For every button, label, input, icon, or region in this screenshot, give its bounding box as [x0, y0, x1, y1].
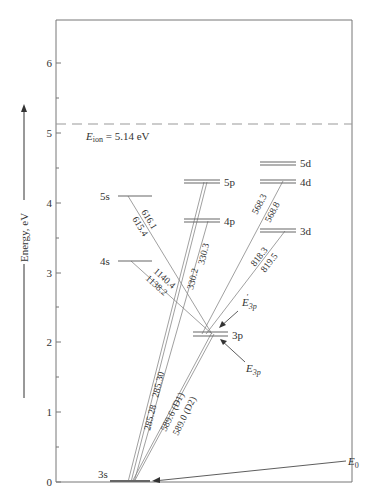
tick-label: 0	[47, 476, 53, 488]
axis-tick-labels: 0 1 2 3 4 5 6	[47, 57, 53, 488]
annotation-e3p-prime: E3p′	[241, 293, 257, 311]
tick-label: 3	[47, 267, 53, 279]
annotation-e0: E0	[347, 455, 359, 470]
level-label-3d: 3d	[300, 225, 312, 237]
level-label-3p: 3p	[232, 329, 244, 341]
ionization-label: Eion = 5.14 eV	[85, 130, 150, 144]
level-label-3s: 3s	[98, 468, 108, 480]
annotation-e3p: E3p	[245, 362, 261, 377]
level-label-5p: 5p	[224, 176, 236, 188]
level-label-4p: 4p	[224, 215, 236, 227]
tick-label: 6	[47, 57, 53, 69]
level-label-4s: 4s	[100, 255, 110, 267]
energy-level-diagram: 0 1 2 3 4 5 6 Energy, eV Eion = 5.14 eV	[0, 0, 369, 502]
arrow-icon	[219, 321, 226, 328]
transition-label: 568.8	[263, 200, 282, 224]
arrow-up-icon	[21, 104, 27, 112]
tick-label: 1	[47, 406, 53, 418]
transition-label: 330.2	[185, 267, 200, 290]
transition-label: 285.28	[142, 403, 158, 431]
tick-label: 4	[47, 197, 53, 209]
transition-label: 285.30	[150, 370, 166, 398]
transition-label: 330.3	[196, 242, 211, 265]
level-label-4d: 4d	[300, 176, 312, 188]
axis-label: Energy, eV	[18, 213, 30, 262]
tick-label: 5	[47, 127, 53, 139]
tick-label: 2	[47, 336, 53, 348]
axis-ticks	[56, 63, 61, 482]
level-label-5s: 5s	[100, 190, 110, 202]
level-label-5d: 5d	[300, 157, 312, 169]
